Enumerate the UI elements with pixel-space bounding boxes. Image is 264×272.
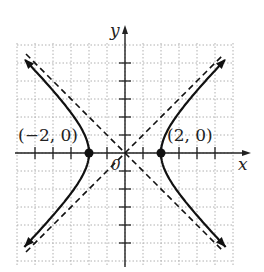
hyperbola-chart: y x (−2, 0) (2, 0) 0 <box>0 0 264 272</box>
y-axis-arrow-icon <box>122 25 128 34</box>
vertex-right-label: (2, 0) <box>167 125 213 145</box>
y-axis-label: y <box>109 20 120 40</box>
x-axis-label: x <box>238 154 248 174</box>
origin-label: 0 <box>111 156 121 174</box>
vertex-point <box>85 149 94 158</box>
vertex-left-label: (−2, 0) <box>18 125 78 145</box>
vertex-point <box>157 149 166 158</box>
